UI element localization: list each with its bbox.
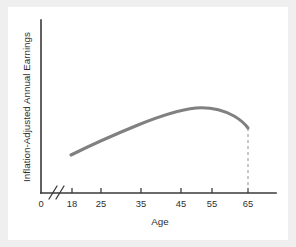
earnings-vs-age-line-chart: 0 18 25 35 45 55 65 Age Inflation-Adjust… — [8, 7, 288, 240]
x-tick-label-45: 45 — [176, 198, 186, 209]
x-tick-label-65: 65 — [243, 198, 253, 209]
page-root: 0 18 25 35 45 55 65 Age Inflation-Adjust… — [0, 0, 296, 247]
x-tick-label-35: 35 — [136, 198, 146, 209]
x-tick-label-0: 0 — [38, 198, 43, 209]
y-axis-title: Inflation-Adjusted Annual Earnings — [21, 32, 32, 182]
x-tick-label-55: 55 — [207, 198, 217, 209]
x-tick-label-18: 18 — [67, 198, 77, 209]
x-axis-title: Age — [151, 216, 169, 227]
x-tick-label-25: 25 — [96, 198, 106, 209]
chart-figure: 0 18 25 35 45 55 65 Age Inflation-Adjust… — [8, 7, 288, 240]
chart-card: 0 18 25 35 45 55 65 Age Inflation-Adjust… — [8, 7, 288, 240]
